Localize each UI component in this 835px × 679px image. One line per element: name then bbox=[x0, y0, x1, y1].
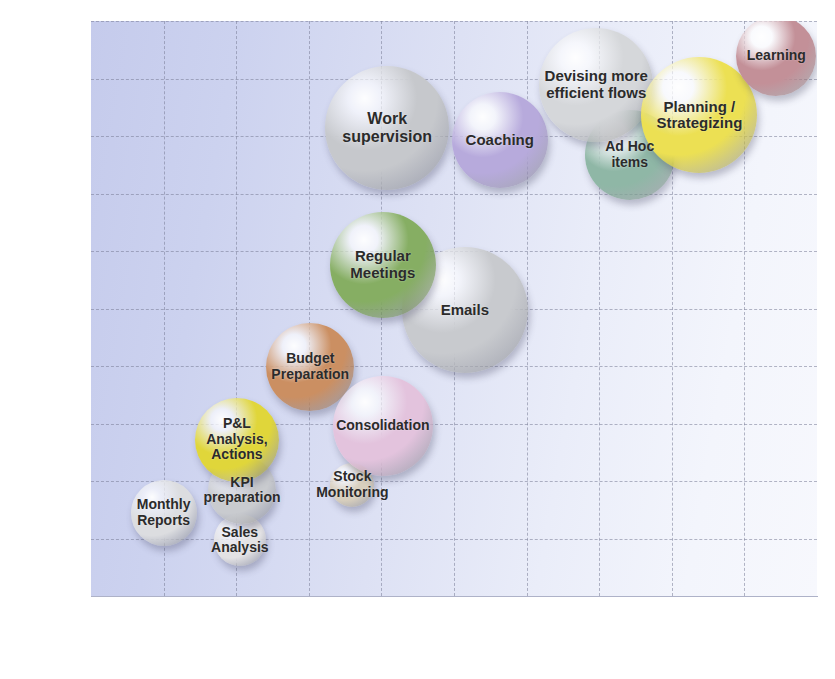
bubble-label: Stock Monitoring bbox=[314, 469, 390, 500]
bubble-label: Devising more efficient flows bbox=[543, 68, 650, 102]
gridline-horizontal bbox=[91, 481, 817, 482]
bubble-5[interactable]: Stock Monitoring bbox=[330, 463, 374, 507]
x-axis-line bbox=[91, 596, 818, 597]
bubble-label: Sales Analysis bbox=[209, 525, 271, 556]
bubble-label: Budget Preparation bbox=[269, 351, 351, 382]
bubble-label: Monthly Reports bbox=[135, 497, 193, 528]
bubble-13[interactable]: Devising more efficient flows bbox=[539, 28, 653, 142]
bubble-label: Work supervision bbox=[340, 110, 434, 146]
bubble-chart-figure: Monthly ReportsSales AnalysisKPI prepara… bbox=[0, 0, 835, 679]
bubble-label: KPI preparation bbox=[202, 475, 283, 506]
bubble-label: Consolidation bbox=[334, 418, 431, 434]
bubble-label: Coaching bbox=[464, 132, 536, 149]
bubble-9[interactable]: Regular Meetings bbox=[330, 212, 436, 318]
bubble-7[interactable]: Consolidation bbox=[333, 376, 433, 476]
gridline-horizontal bbox=[91, 194, 817, 195]
bubble-label: Emails bbox=[439, 302, 491, 319]
gridline-horizontal bbox=[91, 21, 817, 22]
bubble-label: Ad Hoc items bbox=[603, 139, 656, 170]
gridline-horizontal bbox=[91, 539, 817, 540]
bubble-label: Learning bbox=[745, 48, 808, 64]
bubble-11[interactable]: Coaching bbox=[452, 92, 548, 188]
bubble-4[interactable]: P&L Analysis, Actions bbox=[195, 398, 279, 482]
bubble-label: P&L Analysis, Actions bbox=[195, 416, 279, 463]
bubble-10[interactable]: Work supervision bbox=[325, 66, 449, 190]
bubble-1[interactable]: Monthly Reports bbox=[131, 480, 197, 546]
plot-area: Monthly ReportsSales AnalysisKPI prepara… bbox=[91, 21, 817, 596]
bubble-label: Planning / Strategizing bbox=[654, 99, 744, 133]
bubble-label: Regular Meetings bbox=[348, 248, 417, 282]
